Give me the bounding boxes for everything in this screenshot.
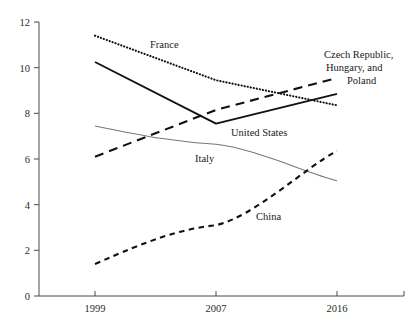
series-label-china: China: [256, 211, 281, 222]
series-line-united-states: [95, 62, 337, 124]
y-tick-label-12: 12: [20, 17, 31, 28]
series-line-italy: [95, 126, 337, 181]
y-tick-label-0: 0: [25, 291, 30, 302]
x-tick-label-1999: 1999: [85, 303, 106, 314]
x-tick-label-2016: 2016: [327, 303, 348, 314]
series-line-czech-hungary-poland: [95, 78, 337, 157]
line-chart-figure: 0 2 4 6 8 10 12 1999 2007 2016 France Un…: [0, 0, 414, 332]
y-tick-label-2: 2: [25, 245, 30, 256]
series-label-czech-hungary-poland-line1: Czech Republic,: [324, 49, 393, 60]
y-tick-label-4: 4: [25, 200, 31, 211]
series-label-france: France: [150, 39, 179, 50]
y-tick-label-10: 10: [20, 63, 31, 74]
series-label-italy: Italy: [195, 153, 215, 164]
series-label-czech-hungary-poland-line3: Poland: [347, 75, 377, 86]
series-line-china: [95, 151, 337, 264]
x-tick-label-2007: 2007: [206, 303, 227, 314]
series-line-france: [95, 36, 337, 106]
y-tick-label-8: 8: [25, 108, 30, 119]
y-tick-label-6: 6: [25, 154, 30, 165]
series-label-united-states: United States: [231, 127, 287, 138]
chart-canvas: 0 2 4 6 8 10 12 1999 2007 2016 France Un…: [0, 0, 414, 332]
series-label-czech-hungary-poland-line2: Hungary, and: [326, 62, 383, 73]
